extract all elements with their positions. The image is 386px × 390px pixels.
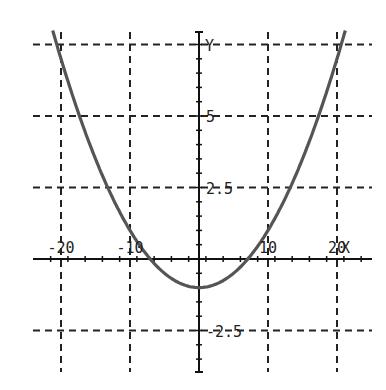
axes	[33, 32, 372, 372]
x-tick-label: -20	[47, 239, 74, 257]
y-tick-label: -2.5	[206, 323, 242, 341]
grid	[33, 32, 372, 372]
axis-ticks	[51, 32, 362, 372]
y-tick-label: 5	[206, 108, 215, 126]
x-tick-label: 10	[259, 239, 277, 257]
parabola-chart: -20 -10 10 20 5 2.5 -2.5 X Y	[0, 0, 386, 390]
y-axis-label: Y	[205, 37, 214, 55]
x-axis-label: X	[341, 239, 350, 257]
x-tick-label: -10	[116, 239, 143, 257]
y-tick-label: 2.5	[206, 180, 233, 198]
